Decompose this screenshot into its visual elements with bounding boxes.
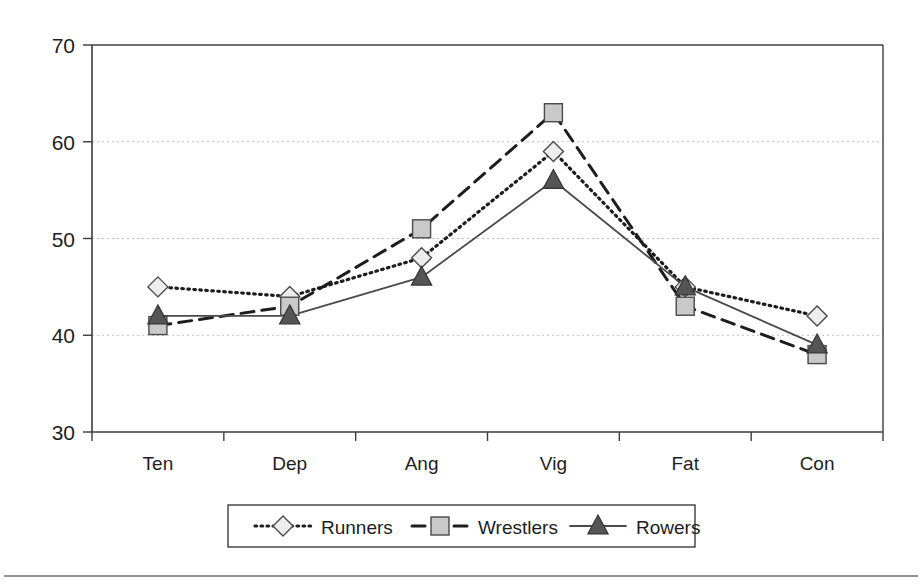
legend-label-wrestlers: Wrestlers	[478, 517, 558, 538]
x-label-dep: Dep	[272, 453, 307, 474]
x-label-ang: Ang	[405, 453, 439, 474]
chart-figure: 70 60 50 40 30 TenDepAngVigFatCon Runner…	[0, 0, 922, 587]
x-label-vig: Vig	[540, 453, 567, 474]
y-tick-label-30: 30	[52, 421, 75, 444]
y-tick-label-70: 70	[52, 34, 75, 57]
legend-label-runners: Runners	[321, 517, 393, 538]
y-axis-ticks	[83, 45, 92, 432]
y-tick-label-50: 50	[52, 228, 75, 251]
x-label-ten: Ten	[143, 453, 174, 474]
legend-label-rowers: Rowers	[636, 517, 700, 538]
x-axis-category-labels: TenDepAngVigFatCon	[143, 453, 835, 474]
legend-marker-wrestlers	[431, 517, 449, 535]
legend: RunnersWrestlersRowers	[228, 505, 700, 547]
x-axis-ticks	[92, 432, 883, 441]
x-label-fat: Fat	[672, 453, 700, 474]
y-axis-tick-labels: 70 60 50 40 30	[52, 34, 75, 444]
data-point-wrestlers-vig	[544, 104, 562, 122]
x-label-con: Con	[800, 453, 835, 474]
y-tick-label-40: 40	[52, 324, 75, 347]
line-chart-svg: 70 60 50 40 30 TenDepAngVigFatCon Runner…	[0, 0, 922, 587]
data-point-wrestlers-ang	[413, 220, 431, 238]
y-tick-label-60: 60	[52, 131, 75, 154]
data-point-wrestlers-fat	[676, 297, 694, 315]
